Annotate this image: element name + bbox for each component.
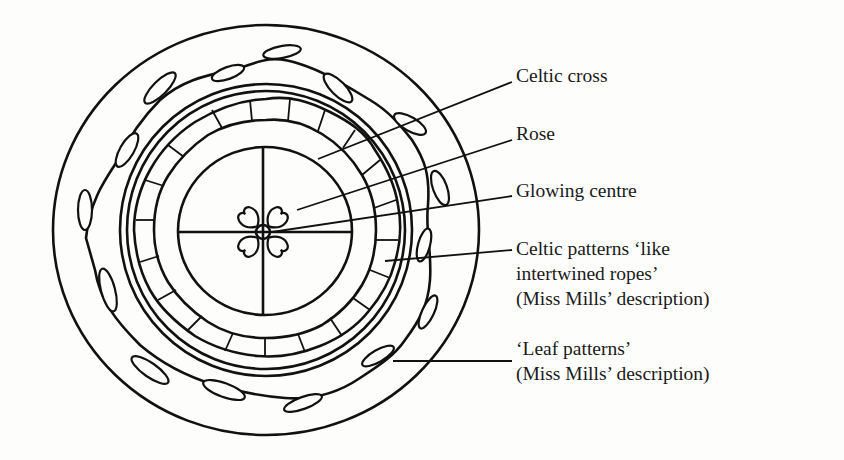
label-rose: Rose [516,121,555,146]
label-celtic-cross: Celtic cross [516,63,608,88]
label-line: Celtic cross [516,63,608,88]
label-line: intertwined ropes’ [516,261,710,286]
outer-ring [120,84,412,376]
label-glowing-centre: Glowing centre [516,178,637,203]
outer-rim-circle [53,25,479,435]
circular-design-diagram [0,0,844,460]
label-leaf-patterns: ‘Leaf patterns’ (Miss Mills’ description… [516,336,710,386]
label-line: ‘Leaf patterns’ [516,336,710,361]
label-celtic-patterns: Celtic patterns ‘like intertwined ropes’… [516,236,710,311]
label-line: Glowing centre [516,178,637,203]
label-line: (Miss Mills’ description) [516,361,710,386]
celtic-rope-pattern [133,97,400,363]
label-line: Rose [516,121,555,146]
leader-lines [272,82,512,361]
label-line: (Miss Mills’ description) [516,286,710,311]
label-line: Celtic patterns ‘like [516,236,710,261]
